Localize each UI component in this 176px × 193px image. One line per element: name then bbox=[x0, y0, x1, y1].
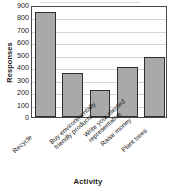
top-edge-artifact bbox=[40, 2, 140, 3]
x-axis-title: Activity bbox=[0, 177, 176, 186]
x-axis-category-labels: RecycleBuy environmentallyfriendly produ… bbox=[0, 118, 176, 174]
y-axis-tick-label: 100 bbox=[17, 102, 29, 109]
y-axis-tick-label: 200 bbox=[17, 90, 29, 97]
x-axis-category-label: Plant trees bbox=[120, 127, 148, 154]
plot-area bbox=[31, 6, 167, 118]
bar bbox=[35, 12, 56, 117]
x-axis-category-label-line: Plant trees bbox=[120, 127, 148, 154]
bar bbox=[144, 57, 165, 117]
y-axis-tick-label: 900 bbox=[17, 2, 29, 9]
bars-group bbox=[32, 7, 166, 117]
y-axis-tick-labels: 0100200300400500600700800900 bbox=[10, 6, 29, 118]
y-axis-tick-label: 500 bbox=[17, 52, 29, 59]
y-axis-tick-label: 400 bbox=[17, 65, 29, 72]
x-axis-category-label: Recycle bbox=[11, 133, 33, 154]
y-axis-tick-label: 300 bbox=[17, 77, 29, 84]
y-axis-tick-label: 800 bbox=[17, 15, 29, 22]
y-axis-tick-label: 600 bbox=[17, 40, 29, 47]
y-axis-tick-label: 700 bbox=[17, 27, 29, 34]
bar-chart-figure: Responses 0100200300400500600700800900 R… bbox=[0, 0, 176, 193]
x-axis-category-label-line: Recycle bbox=[11, 133, 33, 154]
